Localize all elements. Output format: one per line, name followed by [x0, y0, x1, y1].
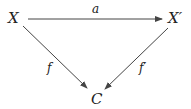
label-f: f	[46, 61, 54, 75]
label-f-prime: f′	[138, 61, 146, 75]
arrow-f	[23, 26, 87, 88]
arrow-f-prime	[105, 28, 168, 89]
commutative-diagram: X X′ C a f f′	[0, 0, 191, 109]
node-x-prime: X′	[167, 9, 183, 27]
label-a: a	[92, 2, 99, 16]
node-c: C	[91, 90, 103, 108]
node-x: X	[7, 9, 20, 27]
